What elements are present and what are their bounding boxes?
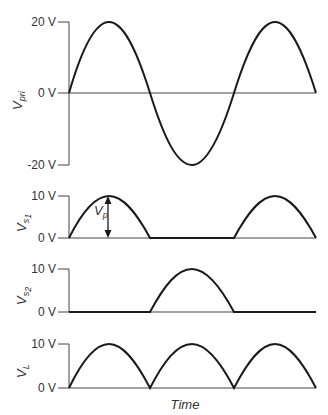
rectifier-waveform-diagram: 20 V 0 V -20 V Vpri 10 V 0 V Vp Vs1 10 V… <box>0 0 328 415</box>
panel-secondary-1: 10 V 0 V Vp Vs1 <box>14 189 316 245</box>
y-axis-s1 <box>58 196 69 238</box>
tick-10v: 10 V <box>31 189 56 203</box>
full-wave-load <box>69 344 316 388</box>
panel-primary: 20 V 0 V -20 V Vpri <box>10 15 316 172</box>
svg-text:Vs1: Vs1 <box>14 214 33 232</box>
y-axis-s2 <box>58 269 69 312</box>
panel-load: 10 V 0 V VL <box>14 337 316 395</box>
ylabel-vs1: Vs1 <box>14 214 33 232</box>
tick-10v: 10 V <box>31 337 56 351</box>
tick-0v: 0 V <box>38 381 56 395</box>
half-wave-s2 <box>69 269 316 312</box>
tick-10v: 10 V <box>31 262 56 276</box>
ylabel-vpri: Vpri <box>10 90 27 110</box>
svg-text:Vpri: Vpri <box>10 90 27 110</box>
tick-20v: 20 V <box>31 15 56 29</box>
y-axis-load <box>58 344 69 388</box>
tick-0v: 0 V <box>38 231 56 245</box>
ylabel-vs2: Vs2 <box>14 287 33 305</box>
x-axis-label-time: Time <box>171 397 200 412</box>
tick-0v: 0 V <box>38 305 56 319</box>
vp-label: Vp <box>94 203 108 220</box>
y-axis-primary <box>58 22 69 165</box>
ylabel-vl: VL <box>14 364 31 378</box>
svg-text:Vs2: Vs2 <box>14 287 33 305</box>
tick-0v: 0 V <box>38 86 56 100</box>
panel-secondary-2: 10 V 0 V Vs2 <box>14 262 316 319</box>
svg-text:VL: VL <box>14 364 31 378</box>
tick-minus20v: -20 V <box>27 158 56 172</box>
